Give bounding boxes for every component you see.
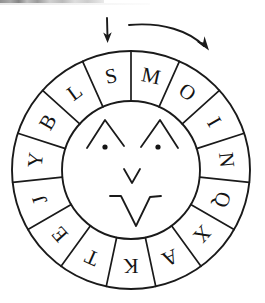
- nose-icon: [124, 169, 140, 183]
- index-pointer-arrow: [103, 18, 112, 43]
- segment-divider: [13, 177, 63, 182]
- mouth-icon: [110, 196, 161, 226]
- wheel-letter-x[interactable]: X: [188, 221, 216, 248]
- wheel-letter-k[interactable]: K: [123, 254, 138, 278]
- wheel-ring-group[interactable]: SMOINQXAKTEJYBL: [12, 51, 250, 289]
- face-group: [87, 120, 178, 226]
- wheel-letter-b[interactable]: B: [34, 110, 62, 134]
- right-brow-icon: [141, 120, 178, 148]
- wheel-letter-e[interactable]: E: [46, 222, 72, 248]
- wheel-letter-q[interactable]: Q: [209, 189, 237, 211]
- segment-divider: [83, 61, 103, 107]
- left-eye-dot: [102, 144, 107, 149]
- wheel-letter-y[interactable]: Y: [23, 151, 48, 169]
- segment-divider: [18, 133, 66, 148]
- segment-divider: [197, 133, 245, 148]
- wheel-letter-n[interactable]: N: [214, 151, 239, 169]
- wheel-letter-t[interactable]: T: [81, 244, 103, 271]
- cipher-wheel-figure: SMOINQXAKTEJYBL: [0, 0, 265, 303]
- segment-divider: [106, 237, 116, 286]
- segment-dividers: [13, 51, 250, 286]
- annotation-layer: [103, 18, 209, 51]
- segment-divider: [145, 237, 155, 286]
- wheel-letter-l[interactable]: L: [62, 79, 86, 106]
- rotation-arrow: [129, 24, 209, 50]
- segment-divider: [200, 177, 250, 182]
- wheel-letter-j[interactable]: J: [27, 192, 52, 207]
- wheel-letter-o[interactable]: O: [174, 78, 200, 106]
- wheel-letter-i[interactable]: I: [202, 113, 226, 131]
- wheel-letter-s[interactable]: S: [103, 63, 119, 89]
- inner-ring-circle: [62, 101, 200, 239]
- wheel-letter-m[interactable]: M: [139, 62, 163, 89]
- wheel-letter-a[interactable]: A: [158, 244, 182, 272]
- right-eye-dot: [155, 144, 160, 149]
- left-brow-icon: [87, 120, 124, 148]
